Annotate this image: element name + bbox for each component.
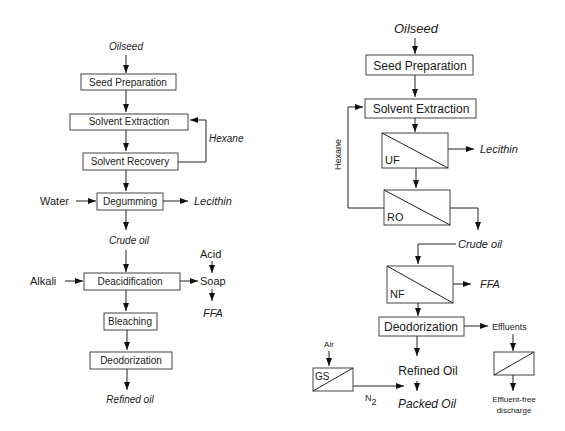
conventional-process: Oilseed Seed Preparation Solvent Extract… [30,41,244,405]
packed-oil-output-label: Packed Oil [398,397,456,411]
effluent-free-discharge-label-1: Effluent-free [492,395,536,404]
svg-text:Solvent Recovery: Solvent Recovery [91,156,169,167]
lecithin-output-label: Lecithin [480,143,518,155]
oilseed-input-label: Oilseed [109,41,143,52]
solvent-extraction-step: Solvent Extraction [70,114,188,130]
crude-oil-label: Crude oil [458,238,503,250]
refined-oil-output-label: Refined oil [106,394,154,405]
gs-gas-separation-unit: GS [313,368,353,391]
seed-preparation-step: Seed Preparation [366,55,473,75]
effluents-label: Effluents [492,322,527,332]
bleaching-step: Bleaching [104,313,157,330]
svg-text:Solvent Extraction: Solvent Extraction [89,116,170,127]
n2-label: N2 [365,393,377,407]
svg-text:RO: RO [387,211,404,223]
alkali-input-label: Alkali [30,275,56,287]
refined-oil-label: Refined Oil [398,364,457,378]
deodorization-step: Deodorization [379,317,464,336]
ffa-output-label: FFA [480,278,500,290]
hexane-recycle-label: Hexane [209,133,244,144]
membrane-process: Oilseed Seed Preparation Solvent Extract… [313,21,536,415]
svg-text:Deacidification: Deacidification [97,276,162,287]
svg-text:Seed Preparation: Seed Preparation [89,77,167,88]
crude-oil-label: Crude oil [109,235,150,246]
solvent-extraction-step: Solvent Extraction [365,99,476,118]
nf-membrane-unit: NF [387,266,453,303]
water-input-label: Water [40,195,69,207]
air-input-label: Air [324,340,334,349]
svg-text:Bleaching: Bleaching [108,316,152,327]
ffa-output-label: FFA [203,307,223,319]
svg-text:Deodorization: Deodorization [384,320,458,334]
deodorization-step: Deodorization [90,352,172,369]
oilseed-input-label: Oilseed [394,21,439,36]
seed-preparation-step: Seed Preparation [81,74,176,90]
uf-membrane-unit: UF [382,133,448,168]
svg-text:Degumming: Degumming [103,196,157,207]
acid-input-label: Acid [200,248,221,260]
svg-text:Solvent Extraction: Solvent Extraction [373,102,470,116]
oil-processing-diagram: Oilseed Seed Preparation Solvent Extract… [0,0,565,431]
effluent-treatment-unit [494,352,534,375]
ro-membrane-unit: RO [384,190,450,225]
svg-text:NF: NF [390,288,405,300]
solvent-recovery-step: Solvent Recovery [83,153,178,170]
hexane-recycle-label: Hexane [333,139,343,170]
svg-text:Seed Preparation: Seed Preparation [373,59,466,73]
soap-label: Soap [200,275,226,287]
degumming-step: Degumming [97,193,163,210]
svg-text:GS: GS [315,371,330,382]
lecithin-output-label: Lecithin [194,195,232,207]
svg-text:Deodorization: Deodorization [100,355,162,366]
svg-text:UF: UF [385,154,400,166]
deacidification-step: Deacidification [84,273,180,290]
effluent-free-discharge-label-2: discharge [497,406,532,415]
